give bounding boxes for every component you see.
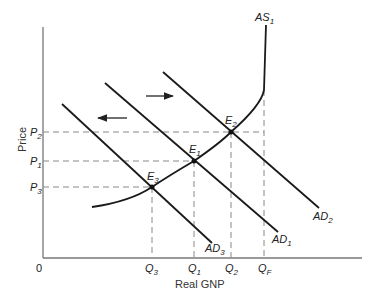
qf-label: QF <box>258 262 273 277</box>
ad2-label: AD2 <box>312 210 333 225</box>
as1-label: AS1 <box>254 11 274 26</box>
e3-point <box>150 185 155 190</box>
q3-label: Q3 <box>145 262 159 277</box>
ad3-label: AD3 <box>204 242 225 257</box>
e1-point <box>192 159 197 164</box>
y-axis-title: Price <box>16 127 28 152</box>
p1-label: P1 <box>30 155 42 170</box>
x-axis-title: Real GNP <box>175 278 225 290</box>
p3-label: P3 <box>30 181 42 196</box>
ad1-curve <box>105 83 278 232</box>
as1-curve <box>92 25 266 207</box>
ad2-curve <box>163 72 319 208</box>
origin-label: 0 <box>36 262 42 274</box>
p2-label: P2 <box>30 126 42 141</box>
q2-label: Q2 <box>225 262 239 277</box>
ad-as-diagram: AS1 AD2 AD1 AD3 E2 E1 E3 P2 P1 P3 0 Q3 Q… <box>0 0 374 297</box>
e3-label: E3 <box>147 170 159 185</box>
ad3-curve <box>62 104 212 243</box>
q1-label: Q1 <box>188 262 201 277</box>
e2-point <box>229 130 234 135</box>
ad1-label: AD1 <box>271 233 292 248</box>
